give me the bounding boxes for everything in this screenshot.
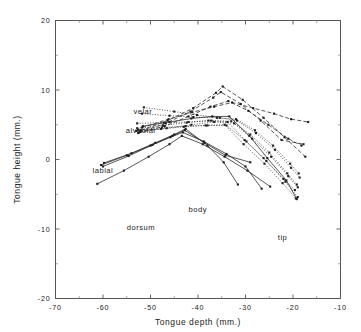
data-point-marker	[202, 143, 204, 145]
data-point-marker	[148, 156, 150, 158]
data-point-marker	[307, 121, 309, 123]
data-point-marker	[191, 111, 193, 113]
data-point-marker	[297, 186, 299, 188]
data-point-marker	[237, 183, 239, 185]
data-point-marker	[290, 167, 292, 169]
x-axis-title: Tongue depth (mm.)	[155, 317, 241, 327]
data-point-marker	[260, 120, 262, 122]
data-point-marker	[169, 136, 171, 138]
data-point-marker	[168, 115, 170, 117]
data-point-marker	[103, 162, 105, 164]
data-point-marker	[225, 153, 227, 155]
annotation-alveolar: alveolar	[126, 126, 157, 135]
data-point-marker	[160, 128, 162, 130]
series-line	[140, 122, 298, 187]
x-tick-label: -10	[334, 303, 347, 312]
y-tick-label: 10	[41, 86, 51, 95]
data-point-marker	[270, 156, 272, 158]
data-point-marker	[186, 122, 188, 124]
data-point-marker	[285, 179, 287, 181]
y-axis-title: Tongue height (mm.)	[12, 115, 22, 203]
data-point-marker	[244, 165, 246, 167]
data-point-marker	[211, 115, 213, 117]
data-point-marker	[272, 145, 274, 147]
data-point-marker	[209, 106, 211, 108]
data-point-marker	[151, 144, 153, 146]
data-point-marker	[173, 133, 175, 135]
data-point-marker	[203, 140, 205, 142]
data-point-marker	[263, 117, 265, 119]
annotation-body: body	[189, 205, 207, 214]
data-point-marker	[255, 132, 257, 134]
data-point-marker	[230, 120, 232, 122]
data-point-marker	[296, 198, 298, 200]
data-point-marker	[267, 124, 269, 126]
data-point-marker	[130, 152, 132, 154]
data-point-marker	[182, 131, 184, 133]
plot-frame	[56, 21, 341, 299]
data-markers-group	[96, 85, 309, 200]
data-point-marker	[171, 135, 173, 137]
data-point-marker	[274, 149, 276, 151]
data-point-marker	[263, 157, 265, 159]
data-point-marker	[228, 115, 230, 117]
x-tick-label: -50	[144, 303, 157, 312]
data-point-marker	[301, 145, 303, 147]
data-point-marker	[296, 183, 298, 185]
data-point-marker	[185, 125, 187, 127]
data-point-marker	[249, 161, 251, 163]
data-point-marker	[290, 118, 292, 120]
data-point-marker	[168, 118, 170, 120]
data-point-marker	[149, 145, 151, 147]
data-point-marker	[268, 152, 270, 154]
x-tick-label: -40	[192, 303, 205, 312]
annotation-labial: labial	[93, 166, 114, 175]
data-point-marker	[289, 163, 291, 165]
data-point-marker	[163, 122, 165, 124]
x-tick-label: -60	[97, 303, 110, 312]
series-line	[144, 107, 300, 177]
data-point-marker	[165, 122, 167, 124]
data-point-marker	[213, 106, 215, 108]
data-point-marker	[162, 124, 164, 126]
data-point-marker	[123, 170, 125, 172]
data-point-marker	[298, 172, 300, 174]
data-point-marker	[222, 85, 224, 87]
data-point-marker	[299, 177, 301, 179]
data-point-marker	[226, 121, 228, 123]
data-point-marker	[243, 143, 245, 145]
data-point-marker	[294, 189, 296, 191]
data-point-marker	[252, 107, 254, 109]
data-point-marker	[219, 117, 221, 119]
data-point-marker	[168, 143, 170, 145]
data-point-marker	[192, 116, 194, 118]
annotation-velar: velar	[133, 107, 152, 116]
data-point-marker	[190, 124, 192, 126]
x-tick-label: -70	[49, 303, 62, 312]
y-tick-label: 20	[41, 16, 51, 25]
data-point-marker	[287, 138, 289, 140]
data-point-marker	[248, 135, 250, 137]
data-point-marker	[297, 196, 299, 198]
data-point-marker	[192, 107, 194, 109]
data-point-marker	[235, 118, 237, 120]
data-point-marker	[196, 114, 198, 116]
annotation-dorsum: dorsum	[127, 223, 155, 232]
data-point-marker	[273, 113, 275, 115]
data-point-marker	[187, 121, 189, 123]
data-point-marker	[206, 124, 208, 126]
y-tick-label: -20	[38, 294, 51, 303]
figure-container: -70-60-50-40-30-20-10 -20-1001020 velara…	[0, 0, 361, 332]
series-line	[101, 132, 262, 188]
data-point-marker	[224, 156, 226, 158]
data-point-marker	[282, 178, 284, 180]
y-axis-ticks: -20-1001020	[38, 16, 341, 303]
data-point-marker	[286, 172, 288, 174]
data-point-marker	[302, 143, 304, 145]
data-point-marker	[244, 139, 246, 141]
data-point-marker	[282, 182, 284, 184]
data-point-marker	[154, 142, 156, 144]
data-point-marker	[128, 155, 130, 157]
series-line	[136, 125, 296, 199]
data-point-marker	[265, 160, 267, 162]
